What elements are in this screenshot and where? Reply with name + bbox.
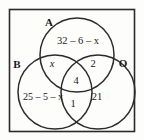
region-b-o-value: 1 [70,99,75,110]
region-b-only-value: 25 – 5 – x [23,92,63,102]
region-a-b-value: x [50,59,55,70]
set-label-b: B [13,59,20,70]
region-a-only-value: 32 – 6 – x [57,36,99,47]
region-o-only-value: 21 [92,92,103,103]
venn-diagram: A B O 32 – 6 – x x 2 4 25 – 5 – x 1 21 [0,0,144,140]
region-a-o-value: 2 [90,59,95,70]
set-label-o: O [119,58,128,69]
universal-set-rectangle [10,10,135,132]
venn-diagram-shapes [0,0,144,140]
region-a-b-o-value: 4 [73,76,78,87]
set-label-a: A [45,17,53,28]
